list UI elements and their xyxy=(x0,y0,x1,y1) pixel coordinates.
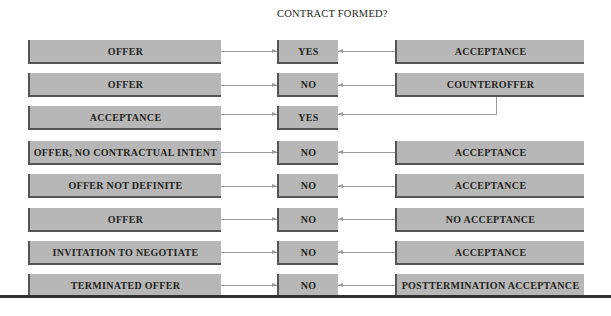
left-box-offer: OFFER xyxy=(28,73,221,97)
arrow-left xyxy=(338,252,395,253)
arrow-left xyxy=(338,152,395,153)
arrow-right xyxy=(221,152,277,153)
arrow-right xyxy=(221,252,277,253)
right-box-acceptance: ACCEPTANCE xyxy=(395,40,584,64)
right-box-acceptance: ACCEPTANCE xyxy=(395,241,584,265)
arrow-right xyxy=(221,114,277,115)
result-box-no: NO xyxy=(277,241,338,265)
arrow-left xyxy=(338,285,395,286)
arrow-right xyxy=(221,186,277,187)
result-box-no: NO xyxy=(277,208,338,232)
arrow-right xyxy=(221,285,277,286)
bottom-rule xyxy=(0,295,611,298)
arrow-right xyxy=(221,51,277,52)
diagram-title: CONTRACT FORMED? xyxy=(277,8,337,19)
left-box-acceptance: ACCEPTANCE xyxy=(28,106,221,130)
arrow-right xyxy=(221,219,277,220)
left-box-offer-no-intent: OFFER, NO CONTRACTUAL INTENT xyxy=(28,141,221,165)
left-box-offer-not-definite: OFFER NOT DEFINITE xyxy=(28,174,221,198)
connector-vertical xyxy=(496,97,497,114)
arrow-left xyxy=(338,219,395,220)
right-box-counteroffer: COUNTEROFFER xyxy=(395,73,584,97)
result-box-no: NO xyxy=(277,141,338,165)
right-box-acceptance: ACCEPTANCE xyxy=(395,174,584,198)
arrow-left xyxy=(338,186,395,187)
result-box-no: NO xyxy=(277,174,338,198)
right-box-no-acceptance: NO ACCEPTANCE xyxy=(395,208,584,232)
left-box-offer: OFFER xyxy=(28,40,221,64)
result-box-yes: YES xyxy=(277,106,338,130)
result-box-no: NO xyxy=(277,73,338,97)
arrow-left-connector xyxy=(338,114,497,115)
arrow-right xyxy=(221,85,277,86)
result-box-yes: YES xyxy=(277,40,338,64)
left-box-invitation: INVITATION TO NEGOTIATE xyxy=(28,241,221,265)
left-box-offer: OFFER xyxy=(28,208,221,232)
arrow-left xyxy=(338,51,395,52)
arrow-left xyxy=(338,85,395,86)
right-box-acceptance: ACCEPTANCE xyxy=(395,141,584,165)
